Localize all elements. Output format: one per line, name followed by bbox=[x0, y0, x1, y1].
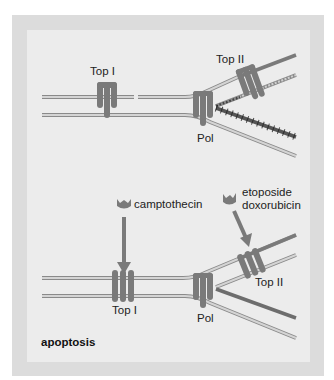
etoposide-label: etoposide bbox=[242, 186, 292, 198]
camptothecin-label: camptothecin bbox=[134, 198, 202, 210]
top-panel: Top I Pol Top II bbox=[42, 53, 296, 156]
arrow-diagonal-icon bbox=[234, 211, 252, 247]
camptothecin-drug-icon bbox=[117, 199, 131, 209]
bottom-panel: camptothecin etoposide doxorubicin bbox=[41, 186, 301, 348]
doxorubicin-label: doxorubicin bbox=[242, 199, 301, 211]
pol-label: Pol bbox=[197, 312, 214, 324]
lagging-new-strand bbox=[216, 289, 296, 318]
top1-protein bbox=[112, 270, 134, 302]
top1-label: Top I bbox=[90, 65, 115, 77]
etoposide-drug-icon bbox=[223, 193, 236, 205]
lagging-new-strand bbox=[216, 108, 296, 137]
top1-protein bbox=[97, 82, 117, 118]
lower-strand bbox=[42, 115, 296, 156]
lower-strand bbox=[42, 296, 296, 338]
pol-label: Pol bbox=[197, 132, 214, 144]
top2-label: Top II bbox=[216, 53, 244, 65]
top1-label: Top I bbox=[112, 304, 137, 316]
top2-label: Top II bbox=[255, 276, 283, 288]
apoptosis-label: apoptosis bbox=[41, 336, 95, 348]
dna-replication-diagram: Top I Pol Top II camptothecin etoposide bbox=[0, 0, 334, 380]
arrow-down-icon bbox=[117, 217, 131, 274]
